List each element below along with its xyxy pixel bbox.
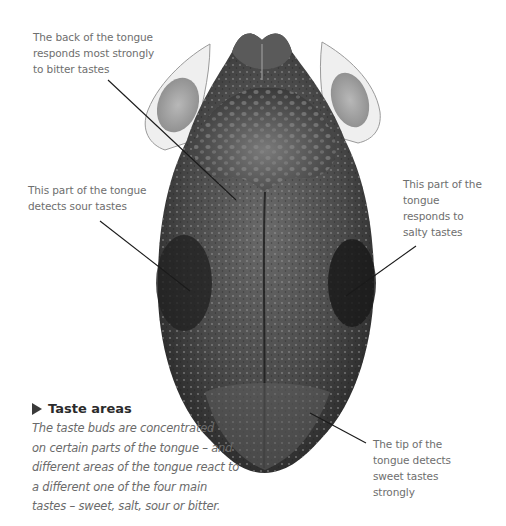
caption-body: The taste buds are concentrated on certa… [32,419,312,517]
triangle-right-icon [32,403,42,415]
label-sweet: The tip of the tongue detects sweet tast… [373,436,483,500]
tongue-diagram: The back of the tongue responds most str… [0,0,506,526]
caption-heading-text: Taste areas [48,399,132,419]
label-sour: This part of the tongue detects sour tas… [28,182,198,214]
caption: Taste areas The taste buds are concentra… [32,399,312,517]
label-bitter: The back of the tongue responds most str… [33,29,203,77]
salty-area [328,239,376,327]
label-salty: This part of the tongue responds to salt… [403,176,503,240]
sour-area [156,235,212,331]
caption-heading: Taste areas [32,399,312,419]
